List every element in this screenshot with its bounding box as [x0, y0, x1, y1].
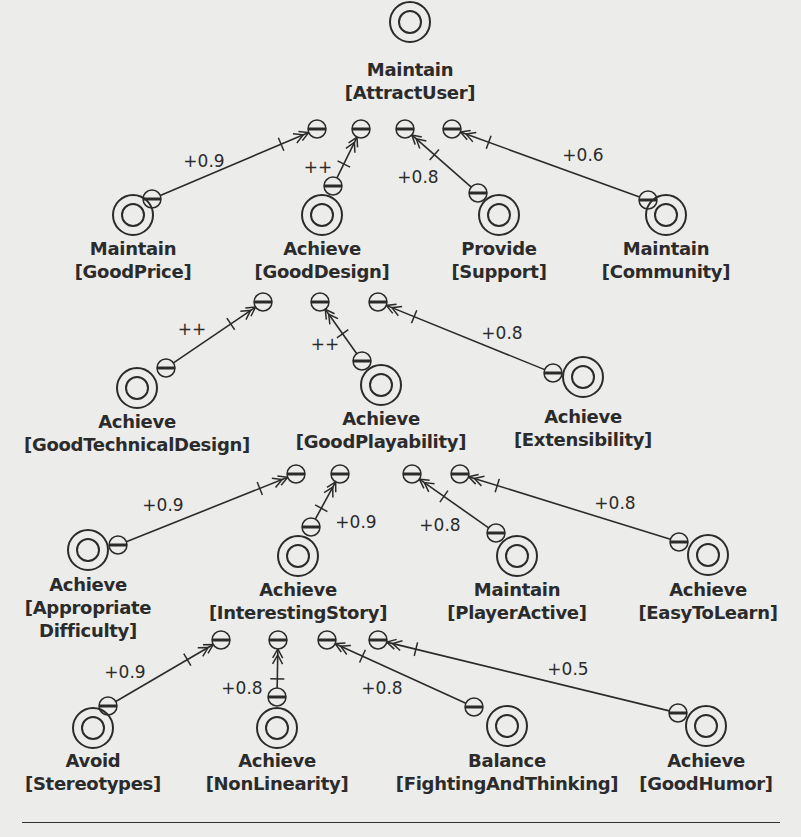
tick-mark-icon	[315, 505, 327, 512]
goal-outer-ring-icon	[479, 195, 519, 235]
goal-name: [GoodPlayability]	[296, 430, 466, 453]
goal-keyword: Achieve	[638, 578, 777, 601]
goal-node-interesting-story[interactable]	[278, 536, 318, 576]
goal-inner-ring-icon	[488, 204, 510, 226]
contribution-weight-label: +0.8	[419, 515, 460, 535]
goal-node-fighting-and-thinking[interactable]	[487, 706, 527, 746]
goal-outer-ring-icon	[487, 706, 527, 746]
goal-name: [InterestingStory]	[209, 601, 387, 624]
goal-keyword: Achieve	[25, 573, 151, 596]
goal-inner-ring-icon	[655, 204, 677, 226]
goal-node-good-playability[interactable]	[361, 365, 401, 405]
goal-keyword: Achieve	[296, 407, 466, 430]
child-port-icon[interactable]	[469, 184, 487, 202]
goal-name: [Community]	[602, 260, 730, 283]
child-port-icon[interactable]	[99, 697, 117, 715]
contribution-weight-label: +0.8	[397, 167, 438, 187]
goal-inner-ring-icon	[77, 539, 99, 561]
child-port-icon[interactable]	[353, 352, 371, 370]
parent-port-icon[interactable]	[318, 631, 336, 649]
contribution-link-good-humor[interactable]	[387, 639, 670, 710]
goal-outer-ring-icon	[113, 195, 153, 235]
goal-keyword: Achieve	[24, 410, 250, 433]
child-port-icon[interactable]	[324, 177, 342, 195]
goal-node-non-linearity[interactable]	[257, 708, 297, 748]
goal-inner-ring-icon	[572, 366, 594, 388]
parent-port-icon[interactable]	[352, 120, 370, 138]
goal-name-line: [Appropriate	[25, 596, 151, 619]
parent-port-icon[interactable]	[403, 465, 421, 483]
link-line	[460, 132, 639, 197]
child-port-icon[interactable]	[487, 524, 505, 542]
contribution-link-community[interactable]	[460, 130, 639, 197]
contribution-link-good-design[interactable]	[337, 137, 358, 178]
goal-node-good-humor[interactable]	[686, 706, 726, 746]
child-port-icon[interactable]	[544, 364, 562, 382]
parent-port-icon[interactable]	[311, 293, 329, 311]
child-port-icon[interactable]	[109, 536, 127, 554]
contribution-weight-label: +0.8	[221, 678, 262, 698]
goal-name: [Extensibility]	[514, 428, 652, 451]
goal-node-extensibility[interactable]	[563, 357, 603, 397]
parent-port-icon[interactable]	[254, 293, 272, 311]
parent-port-icon[interactable]	[369, 631, 387, 649]
parent-port-icon[interactable]	[212, 631, 230, 649]
goal-label-attract-user: Maintain[AttractUser]	[345, 58, 475, 104]
child-port-icon[interactable]	[157, 359, 175, 377]
goal-inner-ring-icon	[287, 545, 309, 567]
goal-inner-ring-icon	[506, 545, 528, 567]
goal-label-non-linearity: Achieve[NonLinearity]	[206, 749, 349, 795]
goal-label-good-design: Achieve[GoodDesign]	[255, 237, 390, 283]
contribution-link-non-linearity[interactable]	[270, 649, 284, 688]
goal-node-stereotypes[interactable]	[73, 708, 113, 748]
goal-label-extensibility: Achieve[Extensibility]	[514, 405, 652, 451]
parent-port-icon[interactable]	[269, 631, 287, 649]
goal-node-attract-user[interactable]	[390, 2, 430, 42]
tick-mark-icon	[360, 650, 366, 663]
contribution-weight-label: +0.8	[361, 678, 402, 698]
goal-node-easy-to-learn[interactable]	[688, 535, 728, 575]
contribution-weight-label: ++	[178, 319, 207, 339]
contribution-weight-label: +0.9	[183, 151, 224, 171]
parent-port-icon[interactable]	[451, 465, 469, 483]
goal-outer-ring-icon	[117, 368, 157, 408]
parent-port-icon[interactable]	[443, 120, 461, 138]
goal-inner-ring-icon	[697, 544, 719, 566]
parent-port-icon[interactable]	[287, 465, 305, 483]
goal-keyword: Achieve	[514, 405, 652, 428]
child-port-icon[interactable]	[465, 698, 483, 716]
parent-port-icon[interactable]	[331, 465, 349, 483]
contribution-weight-label: +0.9	[142, 495, 183, 515]
goal-name: [EasyToLearn]	[638, 601, 777, 624]
contribution-weight-label: +0.8	[481, 323, 522, 343]
parent-port-icon[interactable]	[369, 293, 387, 311]
goal-name: [GoodDesign]	[255, 260, 390, 283]
parent-port-icon[interactable]	[396, 120, 414, 138]
parent-port-icon[interactable]	[308, 120, 326, 138]
goal-node-appropriate-difficulty[interactable]	[68, 530, 108, 570]
goal-node-good-price[interactable]	[113, 195, 153, 235]
goal-name: [PlayerActive]	[447, 601, 586, 624]
goal-node-good-design[interactable]	[302, 195, 342, 235]
goal-name: [Support]	[451, 260, 546, 283]
goal-keyword: Maintain	[602, 237, 730, 260]
child-port-icon[interactable]	[268, 688, 286, 706]
goal-node-player-active[interactable]	[497, 536, 537, 576]
contribution-link-interesting-story[interactable]	[315, 482, 336, 519]
goal-node-good-technical-design[interactable]	[117, 368, 157, 408]
child-port-icon[interactable]	[669, 704, 687, 722]
goal-keyword: Maintain	[447, 578, 586, 601]
goal-outer-ring-icon	[688, 535, 728, 575]
goal-label-good-humor: Achieve[GoodHumor]	[639, 749, 772, 795]
child-port-icon[interactable]	[302, 518, 320, 536]
goal-name: [NonLinearity]	[206, 772, 349, 795]
contribution-weight-label: +0.6	[562, 145, 603, 165]
child-port-icon[interactable]	[670, 533, 688, 551]
goal-label-community: Maintain[Community]	[602, 237, 730, 283]
goal-keyword: Achieve	[255, 237, 390, 260]
goal-node-community[interactable]	[646, 195, 686, 235]
goal-keyword: Balance	[396, 749, 618, 772]
goal-label-player-active: Maintain[PlayerActive]	[447, 578, 586, 624]
goal-node-support[interactable]	[479, 195, 519, 235]
tick-mark-icon	[184, 654, 191, 666]
